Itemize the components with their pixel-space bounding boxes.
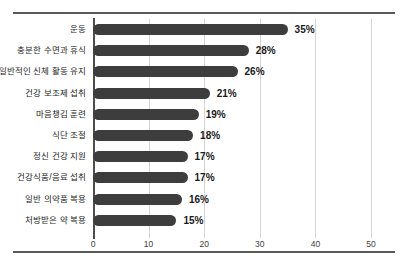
bar-row: 운동35% (93, 19, 406, 40)
category-label: 식단 조절 (52, 125, 86, 146)
category-label: 마음챙김 훈련 (36, 104, 86, 125)
bar-value-label: 21% (217, 83, 237, 104)
category-label: 일반적인 신체 활동 유지 (0, 61, 86, 82)
category-label: 건강 보조제 섭취 (25, 83, 86, 104)
bar-value-label: 26% (245, 61, 265, 82)
x-tick-label-30: 30 (240, 239, 280, 249)
bar-value-label: 19% (206, 104, 226, 125)
bar-row: 일반적인 신체 활동 유지26% (93, 61, 406, 82)
category-label: 일반 의약품 복용 (25, 189, 86, 210)
category-label: 충분한 수면과 휴식 (17, 40, 86, 61)
top-divider-rule (13, 12, 395, 14)
category-label: 정신 건강 지원 (33, 146, 86, 167)
bar-row: 건강 보조제 섭취21% (93, 83, 406, 104)
bottom-divider-rule (13, 251, 395, 253)
x-tick-label-40: 40 (295, 239, 335, 249)
x-tick-label-20: 20 (184, 239, 224, 249)
bar-value-label: 35% (295, 19, 315, 40)
x-tick-label-0: 0 (73, 239, 113, 249)
x-tick-label-50: 50 (351, 239, 391, 249)
bar-row: 정신 건강 지원17% (93, 146, 406, 167)
category-label: 처방받은 약 복용 (25, 210, 86, 231)
bar (93, 130, 193, 141)
bar (93, 45, 249, 56)
bar (93, 109, 199, 120)
bar (93, 88, 210, 99)
bar (93, 215, 176, 226)
bar-row: 식단 조절18% (93, 125, 406, 146)
bar-row: 마음챙김 훈련19% (93, 104, 406, 125)
bar (93, 172, 188, 183)
plot-area: 운동35%충분한 수면과 휴식28%일반적인 신체 활동 유지26%건강 보조제… (93, 19, 371, 238)
category-label: 운동 (70, 19, 86, 40)
bar (93, 66, 238, 77)
bar-value-label: 17% (195, 146, 215, 167)
bar-value-label: 15% (183, 210, 203, 231)
bar-row: 일반 의약품 복용16% (93, 189, 406, 210)
bar-row: 처방받은 약 복용15% (93, 210, 406, 231)
bar (93, 151, 188, 162)
bar (93, 24, 288, 35)
bar-row: 건강식품/음료 섭취17% (93, 167, 406, 188)
x-tick-label-10: 10 (129, 239, 169, 249)
chart-figure: 운동35%충분한 수면과 휴식28%일반적인 신체 활동 유지26%건강 보조제… (0, 0, 406, 270)
bar-value-label: 17% (195, 167, 215, 188)
bar-value-label: 18% (200, 125, 220, 146)
figure-caption (14, 258, 214, 268)
bar (93, 194, 182, 205)
category-label: 건강식품/음료 섭취 (17, 167, 86, 188)
bar-value-label: 28% (256, 40, 276, 61)
bar-row: 충분한 수면과 휴식28% (93, 40, 406, 61)
bar-value-label: 16% (189, 189, 209, 210)
